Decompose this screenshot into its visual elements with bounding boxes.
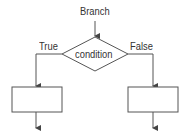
- false-label: False: [130, 40, 153, 52]
- flowchart-canvas: [0, 0, 188, 137]
- true-process-box: [12, 87, 62, 112]
- false-branch-line: [128, 54, 153, 86]
- condition-label: condition: [75, 48, 112, 60]
- entry-label: Branch: [80, 5, 110, 17]
- true-branch-line: [36, 54, 62, 86]
- true-label: True: [39, 40, 58, 52]
- false-process-box: [128, 87, 178, 112]
